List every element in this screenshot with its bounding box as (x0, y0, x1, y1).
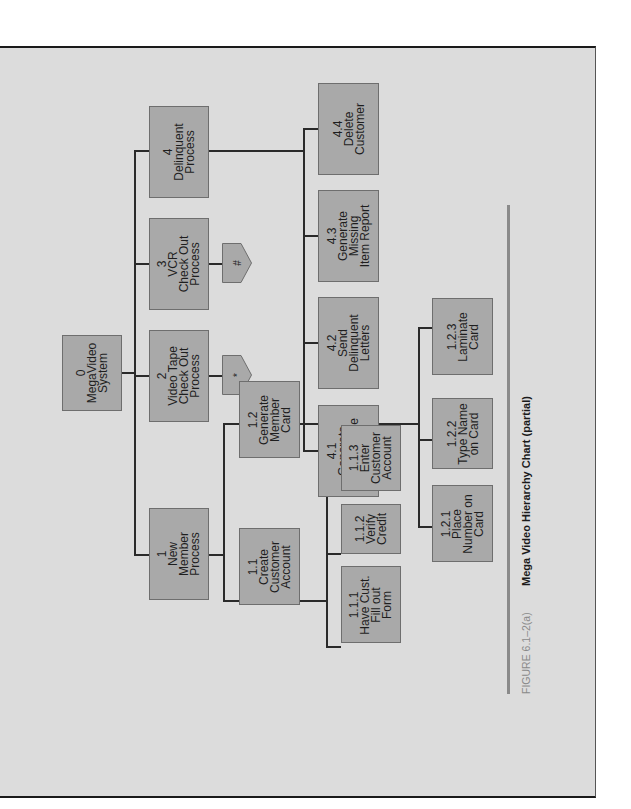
figure-title: Mega Video Hierarchy Chart (partial) (520, 396, 532, 586)
node-1-2-generate-member-card: 1.2 Generate Member Card (239, 381, 300, 458)
node-1-2-2-type-name-on-card: 1.2.2 Type Name on Card (432, 398, 493, 469)
node-1-2-3-laminate-card: 1.2.3 Laminate Card (432, 298, 493, 375)
node-4-2-send-delinquent-letters: 4.2 Send Delinquent Letters (318, 297, 379, 389)
node-1-2-1-place-number-on-card: 1.2.1 Place Number on Card (432, 485, 493, 562)
caption-rule (507, 205, 510, 694)
figure-number: FIGURE 6.1–2(a) (520, 612, 532, 694)
node-4-3-missing-item-report: 4.3 Generate Missing Item Report (318, 190, 379, 282)
offpage-connector-hash: # (222, 243, 252, 283)
node-1-1-3-enter-customer-account: 1.1.3 Enter Customer Account (341, 425, 401, 491)
node-1-1-create-customer-account: 1.1 Create Customer Account (239, 528, 300, 605)
node-1-1-1-fill-out-form: 1.1.1 Have Cust. Fill out Form (341, 566, 401, 643)
node-0-megavideo-system: 0 MegaVideo System (62, 335, 122, 411)
node-3-vcr-check-out: 3 VCR Check Out Process (149, 218, 209, 310)
node-4-delinquent-process: 4 Delinquent Process (149, 106, 209, 198)
node-1-1-2-verify-credit: 1.1.2 Verify Credit (341, 504, 401, 554)
node-1-new-member-process: 1 New Member Process (149, 508, 209, 600)
node-4-4-delete-customer: 4.4 Delete Customer (318, 83, 379, 175)
node-2-video-tape-check-out: 2 Video Tape Check Out Process (149, 330, 209, 422)
